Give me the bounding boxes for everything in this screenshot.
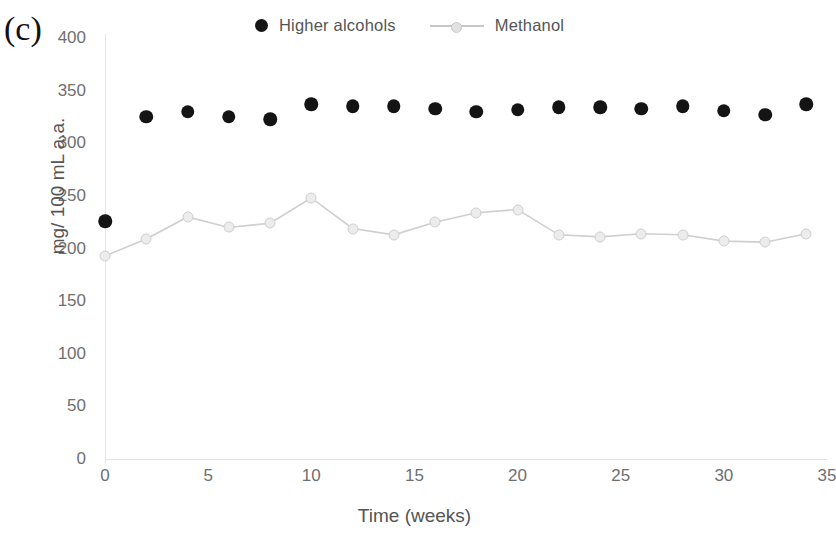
y-tick-label: 0 <box>28 449 86 469</box>
methanol-point <box>141 234 152 245</box>
filled-circle-marker-icon <box>255 19 268 32</box>
methanol-point <box>347 223 358 234</box>
legend-item-methanol: Methanol <box>430 16 564 35</box>
methanol-point <box>553 229 564 240</box>
higher-alcohols-point <box>98 214 112 228</box>
higher-alcohols-point <box>140 110 154 124</box>
legend-label-methanol: Methanol <box>495 16 564 35</box>
higher-alcohols-point <box>305 98 319 112</box>
x-axis-title: Time (weeks) <box>0 505 829 527</box>
higher-alcohols-point <box>717 104 731 118</box>
higher-alcohols-point <box>800 98 814 112</box>
x-tick-label: 15 <box>405 466 424 486</box>
methanol-point <box>760 237 771 248</box>
methanol-point <box>223 222 234 233</box>
methanol-point <box>512 204 523 215</box>
higher-alcohols-point <box>676 100 690 114</box>
line-circle-marker-icon <box>430 19 484 32</box>
higher-alcohols-point <box>222 110 236 124</box>
methanol-point <box>388 229 399 240</box>
y-axis-line <box>105 34 106 463</box>
higher-alcohols-point <box>552 101 566 115</box>
higher-alcohols-point <box>470 105 484 119</box>
higher-alcohols-point <box>387 100 401 114</box>
higher-alcohols-point <box>511 103 525 117</box>
higher-alcohols-point <box>181 105 195 119</box>
x-tick-label: 20 <box>508 466 527 486</box>
legend-item-higher-alcohols: Higher alcohols <box>255 16 396 35</box>
methanol-point <box>471 207 482 218</box>
x-tick-label: 0 <box>100 466 109 486</box>
x-tick-label: 35 <box>818 466 836 486</box>
methanol-point <box>801 228 812 239</box>
methanol-point <box>718 236 729 247</box>
methanol-point <box>595 231 606 242</box>
x-tick-label: 5 <box>203 466 212 486</box>
higher-alcohols-point <box>635 102 649 116</box>
higher-alcohols-point <box>263 112 277 126</box>
methanol-point <box>265 218 276 229</box>
methanol-point <box>100 250 111 261</box>
x-axis-line <box>105 459 827 460</box>
higher-alcohols-point <box>593 101 607 115</box>
chart-legend: Higher alcohols Methanol <box>255 16 564 35</box>
higher-alcohols-point <box>758 108 772 122</box>
x-tick-label: 25 <box>611 466 630 486</box>
methanol-point <box>677 229 688 240</box>
y-tick-label: 400 <box>28 28 86 48</box>
x-tick-label: 30 <box>714 466 733 486</box>
higher-alcohols-point <box>346 100 360 114</box>
x-tick-label: 10 <box>302 466 321 486</box>
methanol-point <box>430 217 441 228</box>
methanol-line <box>105 198 806 256</box>
y-tick-label: 50 <box>28 396 86 416</box>
methanol-point <box>306 192 317 203</box>
legend-label-higher-alcohols: Higher alcohols <box>279 16 396 35</box>
methanol-point <box>636 228 647 239</box>
higher-alcohols-point <box>428 102 442 116</box>
methanol-point <box>182 211 193 222</box>
y-tick-label: 100 <box>28 344 86 364</box>
y-axis-title: mg/ 100 mL a.a. <box>47 66 69 306</box>
